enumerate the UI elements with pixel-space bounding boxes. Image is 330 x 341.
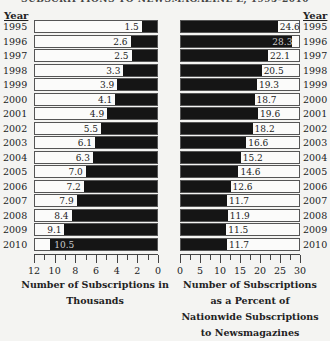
right-bar	[181, 50, 268, 61]
right-bar	[181, 152, 241, 163]
right-bar	[181, 195, 227, 206]
left-year-label: 1998	[3, 64, 27, 77]
right-tick-label: 30	[294, 265, 306, 276]
right-bar-row: 16.6	[180, 136, 300, 149]
right-bar-row: 18.7	[180, 93, 300, 106]
right-bar-value: 11.7	[229, 195, 249, 207]
left-bar-row: 7.9	[34, 194, 158, 207]
right-year-label: 2010	[303, 238, 327, 251]
axis-tick	[44, 255, 45, 260]
right-tick-label: 20	[254, 265, 266, 276]
right-year-label: 2006	[303, 180, 327, 193]
right-year-label: 2009	[303, 223, 327, 236]
right-year-label: 1997	[303, 49, 327, 62]
right-bar-row: 11.5	[180, 223, 300, 236]
axis-tick	[106, 255, 107, 260]
left-tick-label: 12	[28, 265, 40, 276]
left-bar-value: 6.3	[76, 152, 90, 164]
left-bar	[107, 108, 157, 119]
left-bar-row: 6.3	[34, 151, 158, 164]
left-bar-value: 7.9	[59, 195, 73, 207]
right-bar-value: 11.7	[229, 239, 249, 251]
right-year-label: 2008	[303, 209, 327, 222]
right-tick-label: 5	[197, 265, 203, 276]
right-bar	[181, 94, 255, 105]
left-tick-label: 4	[114, 265, 120, 276]
left-bar	[117, 79, 157, 90]
right-bar	[181, 239, 227, 250]
left-bar	[72, 210, 157, 221]
right-year-label: 2007	[303, 194, 327, 207]
left-bar-row: 2.5	[34, 49, 158, 62]
axis-tick	[290, 255, 291, 260]
left-bar-value: 4.9	[90, 108, 104, 120]
left-bar-row: 1.5	[34, 20, 158, 33]
right-year-label: 2003	[303, 136, 327, 149]
left-bar-row: 3.9	[34, 78, 158, 91]
right-tick-label: 15	[234, 265, 246, 276]
right-bar-row: 11.7	[180, 238, 300, 251]
left-bar	[95, 137, 157, 148]
right-bar-row: 14.6	[180, 165, 300, 178]
axis-tick	[220, 255, 221, 263]
right-year-label: 1998	[303, 64, 327, 77]
axis-tick	[250, 255, 251, 260]
right-tick-label: 25	[274, 265, 286, 276]
left-bar	[115, 94, 157, 105]
right-bar-row: 19.3	[180, 78, 300, 91]
right-bar-row: 12.6	[180, 180, 300, 193]
right-bar	[181, 137, 246, 148]
axis-tick	[55, 255, 56, 263]
left-year-label: 2001	[3, 107, 27, 120]
right-x-axis	[180, 254, 300, 265]
right-bar-value: 11.5	[228, 224, 248, 236]
left-tick-label: 8	[72, 265, 78, 276]
right-bar-row: 18.2	[180, 122, 300, 135]
left-year-label: 2000	[3, 93, 27, 106]
right-bar-value: 18.2	[255, 123, 275, 135]
left-bar	[131, 36, 157, 47]
left-bar-value: 5.5	[84, 123, 98, 135]
left-tick-label: 10	[49, 265, 61, 276]
right-x-axis-label: Number of Subscriptions as a Percent of …	[170, 277, 330, 341]
left-year-label: 2003	[3, 136, 27, 149]
right-bar	[181, 65, 262, 76]
left-bar-value: 4.1	[98, 94, 112, 106]
left-bar-row: 7.2	[34, 180, 158, 193]
left-bar-value: 3.9	[100, 79, 114, 91]
chart-title: SUBSCRIPTIONS TO NEWSMAGAZINE Z, 1995-20…	[0, 0, 330, 4]
axis-tick	[148, 255, 149, 260]
left-bar-value: 8.4	[54, 210, 68, 222]
left-bar-value: 3.3	[106, 65, 120, 77]
left-bar-row: 8.4	[34, 209, 158, 222]
right-bar-row: 19.6	[180, 107, 300, 120]
left-x-axis-label: Number of Subscriptions in Thousands	[20, 277, 170, 309]
left-bar-row: 2.6	[34, 35, 158, 48]
right-bar-value: 18.7	[257, 94, 277, 106]
right-year-label: 2005	[303, 165, 327, 178]
left-bar-row: 9.1	[34, 223, 158, 236]
left-bar-row: 4.1	[34, 93, 158, 106]
left-bar-row: 5.5	[34, 122, 158, 135]
axis-tick	[240, 255, 241, 263]
right-bar-value: 20.5	[264, 65, 284, 77]
right-bar	[181, 224, 226, 235]
right-tick-label: 0	[177, 265, 183, 276]
left-tick-label: 2	[134, 265, 140, 276]
left-bar	[101, 123, 157, 134]
left-bar	[93, 152, 157, 163]
right-bar-row: 28.3	[180, 35, 300, 48]
left-bar	[84, 181, 157, 192]
axis-tick	[210, 255, 211, 260]
axis-tick	[180, 255, 181, 263]
left-year-label: 2009	[3, 223, 27, 236]
right-bar-value: 14.6	[240, 166, 260, 178]
right-bar	[181, 79, 257, 90]
left-bar	[132, 50, 157, 61]
left-year-label: 2002	[3, 122, 27, 135]
right-year-label: 1999	[303, 78, 327, 91]
left-tick-label: 0	[155, 265, 161, 276]
axis-tick	[75, 255, 76, 263]
left-x-axis	[34, 254, 158, 265]
axis-tick	[270, 255, 271, 260]
